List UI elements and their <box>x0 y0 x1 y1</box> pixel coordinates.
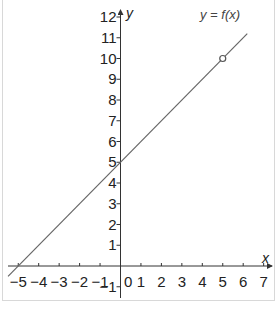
y-tick-label: 6 <box>108 133 116 150</box>
x-tick-label: −3 <box>51 273 68 290</box>
y-ticks: −1123456789101112 <box>99 8 120 295</box>
y-tick-label: 8 <box>108 91 116 108</box>
x-ticks: −5−4−3−2−11234567 <box>10 263 268 290</box>
y-tick-label: 3 <box>108 195 116 212</box>
x-tick-label: 6 <box>239 273 247 290</box>
function-line <box>8 34 247 277</box>
axes <box>8 10 272 298</box>
x-tick-label: −4 <box>30 273 47 290</box>
y-axis-label: y <box>125 5 134 21</box>
y-tick-label: 11 <box>101 29 117 46</box>
x-tick-label: 3 <box>178 273 186 290</box>
y-tick-label: 7 <box>108 112 116 129</box>
x-tick-label: 1 <box>137 273 145 290</box>
open-circle-marker <box>220 56 226 62</box>
x-tick-label: 7 <box>259 273 267 290</box>
y-tick-label: 1 <box>108 236 116 253</box>
y-tick-label: 12 <box>100 8 117 25</box>
x-tick-label: 4 <box>198 273 206 290</box>
x-tick-label: −2 <box>71 273 88 290</box>
function-line-path <box>8 34 247 277</box>
y-tick-label: 2 <box>108 216 116 233</box>
y-tick-label: 9 <box>108 70 116 87</box>
origin-label: 0 <box>124 273 132 290</box>
y-tick-label: 4 <box>108 174 116 191</box>
x-axis-label: x <box>261 250 270 266</box>
x-tick-label: 5 <box>219 273 227 290</box>
y-tick-label: −1 <box>99 278 116 295</box>
y-tick-label: 10 <box>100 50 117 67</box>
x-tick-label: 2 <box>157 273 165 290</box>
x-tick-label: −5 <box>10 273 27 290</box>
line-chart: −5−4−3−2−11234567 −1123456789101112 0 x … <box>0 0 279 310</box>
function-label: y = f(x) <box>199 7 240 22</box>
